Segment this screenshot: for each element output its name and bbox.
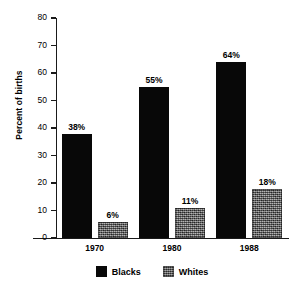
bar-value-label: 64% bbox=[223, 50, 240, 60]
legend-swatch-blacks bbox=[96, 266, 107, 277]
bar-whites-1980: 11% bbox=[175, 208, 205, 238]
bar-value-label: 11% bbox=[182, 196, 199, 206]
legend-item-whites: Whites bbox=[163, 266, 209, 277]
y-axis-tick-label: 80 bbox=[38, 12, 47, 23]
bar-blacks-1980: 55% bbox=[139, 87, 169, 238]
bar-value-label: 38% bbox=[68, 122, 85, 132]
bar-whites-1970: 6% bbox=[98, 222, 128, 239]
y-axis-tick-label: 20 bbox=[38, 177, 47, 188]
y-axis-tick-label: 70 bbox=[38, 40, 47, 51]
y-axis-tick-label: 40 bbox=[38, 122, 47, 133]
x-axis-line bbox=[33, 238, 289, 239]
bar-blacks-1970: 38% bbox=[62, 134, 92, 239]
bar-chart: Percent of births 01020304050607080 38%6… bbox=[0, 0, 304, 293]
y-axis-tick-label: 0 bbox=[42, 232, 47, 243]
y-axis-title: Percent of births bbox=[14, 45, 24, 165]
bar-value-label: 18% bbox=[259, 177, 276, 187]
bar-value-label: 6% bbox=[107, 210, 119, 220]
x-axis-tick-label-1988: 1988 bbox=[219, 243, 279, 253]
legend-item-blacks: Blacks bbox=[96, 266, 141, 277]
legend-swatch-whites bbox=[163, 266, 174, 277]
y-axis-tick-label: 10 bbox=[38, 205, 47, 216]
legend-label: Whites bbox=[179, 267, 209, 277]
y-axis-tick-label: 30 bbox=[38, 150, 47, 161]
bar-value-label: 55% bbox=[145, 75, 162, 85]
bar-whites-1988: 18% bbox=[252, 189, 282, 239]
bar-blacks-1988: 64% bbox=[216, 62, 246, 238]
y-axis-tick-label: 60 bbox=[38, 67, 47, 78]
legend-label: Blacks bbox=[112, 267, 141, 277]
chart-legend: BlacksWhites bbox=[0, 266, 304, 277]
x-axis-tick-label-1980: 1980 bbox=[142, 243, 202, 253]
y-axis-tick-label: 50 bbox=[38, 95, 47, 106]
plot-area: 38%6%55%11%64%18% bbox=[56, 18, 288, 238]
x-axis-tick-label-1970: 1970 bbox=[65, 243, 125, 253]
